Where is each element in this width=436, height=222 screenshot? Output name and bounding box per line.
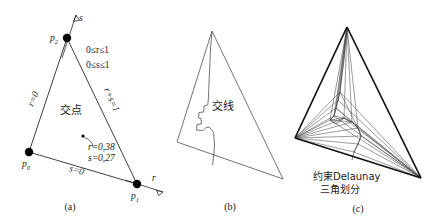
vertex-p1-subscript: 1: [136, 196, 139, 203]
intersection-line-label: 交线: [212, 99, 234, 113]
svg-text:p2: p2: [49, 33, 59, 45]
edge-label-s-equals-zero: s=0: [68, 163, 85, 177]
panel-c-caption: (c): [352, 203, 363, 215]
vertex-p2-subscript: 2: [55, 38, 59, 45]
panel-c-edge-right: [347, 27, 421, 178]
panel-a: p2 p0 p1 s r r=0 r+s=1 s=0 0≤r≤1 0: [21, 13, 163, 213]
sample-s-value: s=0,27: [88, 153, 116, 163]
constraint-s-range: 0≤s≤1: [86, 60, 110, 70]
svg-text:p0: p0: [21, 159, 31, 171]
panel-b-edge-bottom: [177, 142, 283, 179]
mesh-edge: [295, 92, 340, 138]
delaunay-label-line1: 约束Delaunay: [313, 170, 381, 182]
vertex-p0-subscript: 0: [27, 164, 31, 171]
panel-a-caption: (a): [64, 201, 75, 213]
panel-b: 交线 (b): [177, 31, 283, 213]
r-axis-arrowhead: [157, 190, 164, 195]
vertex-p1-dot: [133, 180, 141, 188]
sample-r-value: r=0,38: [88, 142, 115, 152]
intersection-point-label: 交点: [60, 103, 82, 117]
sample-point-dot: [81, 134, 84, 137]
figure-container: p2 p0 p1 s r r=0 r+s=1 s=0 0≤r≤1 0: [0, 0, 436, 222]
panel-b-edge-left: [177, 31, 212, 142]
s-axis-label: s: [79, 13, 83, 23]
svg-text:p1: p1: [130, 191, 139, 203]
edge-label-r-plus-s-equals-one: r+s=1: [102, 86, 121, 113]
mesh-edge: [338, 100, 421, 178]
vertex-p2-label: p2: [49, 33, 59, 45]
vertex-p0-label: p0: [21, 159, 31, 171]
vertex-p2-dot: [63, 34, 71, 42]
r-axis-label: r: [152, 173, 156, 183]
panel-b-caption: (b): [224, 201, 236, 213]
vertex-p0-dot: [25, 148, 33, 156]
delaunay-label-line2: 三角划分: [320, 183, 360, 195]
panel-c: 约束Delaunay 三角划分 (c): [295, 27, 421, 215]
vertex-p1-label: p1: [130, 191, 139, 203]
mesh-edge: [347, 27, 358, 128]
edge-label-r-equals-zero: r=0: [26, 90, 41, 108]
mesh-chain-lower: [354, 128, 361, 152]
mesh-edge: [295, 122, 352, 138]
constraint-r-range: 0≤r≤1: [86, 45, 109, 55]
